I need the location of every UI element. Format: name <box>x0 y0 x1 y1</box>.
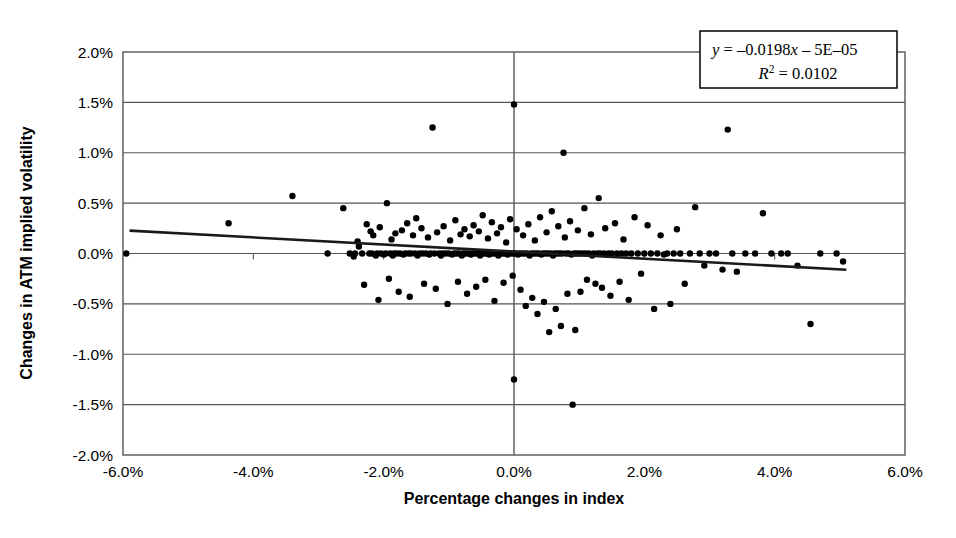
data-point <box>510 272 516 278</box>
data-point <box>687 250 693 256</box>
data-point <box>359 250 365 256</box>
data-point <box>760 210 766 216</box>
data-point <box>562 234 568 240</box>
data-point <box>599 285 605 291</box>
data-point <box>742 250 748 256</box>
data-point <box>418 225 424 231</box>
data-point <box>713 250 719 256</box>
data-point <box>667 301 673 307</box>
data-point <box>706 250 712 256</box>
data-point <box>384 200 390 206</box>
data-point <box>507 216 513 222</box>
data-point <box>520 232 526 238</box>
y-tick-label: -1.5% <box>73 396 114 413</box>
data-point <box>455 279 461 285</box>
x-tick-label: -2.0% <box>363 463 404 480</box>
data-point <box>657 232 663 238</box>
data-point <box>461 226 467 232</box>
data-point <box>433 286 439 292</box>
data-point <box>572 327 578 333</box>
data-point <box>588 231 594 237</box>
data-point <box>444 301 450 307</box>
data-point <box>532 237 538 243</box>
data-point <box>494 230 500 236</box>
data-point <box>833 250 839 256</box>
data-point <box>500 280 506 286</box>
data-point <box>473 284 479 290</box>
data-point <box>503 239 509 245</box>
data-point <box>482 276 488 282</box>
data-point <box>725 126 731 132</box>
data-point <box>752 250 758 256</box>
data-point <box>447 237 453 243</box>
data-point <box>511 376 517 382</box>
data-point <box>628 250 634 256</box>
data-point <box>692 204 698 210</box>
y-tick-label: 0.5% <box>78 195 114 212</box>
data-point <box>523 303 529 309</box>
data-point <box>289 193 295 199</box>
data-point <box>324 250 330 256</box>
data-point <box>641 250 647 256</box>
data-point <box>452 217 458 223</box>
data-point <box>395 289 401 295</box>
data-point <box>392 230 398 236</box>
y-tick-label: 1.0% <box>78 144 114 161</box>
data-point <box>534 311 540 317</box>
data-point <box>457 231 463 237</box>
data-point <box>807 321 813 327</box>
data-point <box>840 258 846 264</box>
data-point <box>817 250 823 256</box>
data-point <box>377 224 383 230</box>
data-point <box>560 150 566 156</box>
data-point <box>546 329 552 335</box>
data-point <box>768 250 774 256</box>
data-point <box>648 250 654 256</box>
data-point <box>581 205 587 211</box>
data-point <box>682 281 688 287</box>
data-point <box>778 250 784 256</box>
data-point <box>616 279 622 285</box>
data-point <box>517 287 523 293</box>
data-point <box>729 250 735 256</box>
data-point <box>558 323 564 329</box>
data-point <box>625 297 631 303</box>
data-point <box>388 236 394 242</box>
data-point <box>421 281 427 287</box>
equation-body: = –0.0198 <box>719 40 790 59</box>
data-point <box>489 219 495 225</box>
data-point <box>498 224 504 230</box>
y-tick-label: 1.5% <box>78 94 114 111</box>
data-point <box>364 221 370 227</box>
x-tick-label: 6.0% <box>887 463 923 480</box>
data-point <box>635 250 641 256</box>
data-point <box>399 227 405 233</box>
data-point <box>575 227 581 233</box>
x-tick-label: 2.0% <box>627 463 663 480</box>
data-point <box>584 276 590 282</box>
data-point <box>480 212 486 218</box>
data-point <box>525 221 531 227</box>
data-point <box>413 215 419 221</box>
x-tick-label: -6.0% <box>103 463 144 480</box>
data-point <box>638 270 644 276</box>
y-tick-label: 2.0% <box>78 44 114 61</box>
x-tick-label: 0.0% <box>496 463 532 480</box>
data-point <box>555 223 561 229</box>
data-point <box>654 250 660 256</box>
data-point <box>225 220 231 226</box>
data-point <box>607 293 613 299</box>
regression-annotation: y = –0.0198x – 5E–05 R2 = 0.0102 <box>700 31 897 88</box>
data-point <box>670 250 676 256</box>
data-point <box>511 101 517 107</box>
data-point <box>434 229 440 235</box>
x-tick-label: 4.0% <box>757 463 793 480</box>
equation-tail: – 5E–05 <box>798 40 858 59</box>
data-point <box>620 236 626 242</box>
data-point <box>541 299 547 305</box>
data-point <box>577 289 583 295</box>
data-point <box>674 226 680 232</box>
data-point <box>485 235 491 241</box>
data-point <box>470 222 476 228</box>
data-point <box>537 214 543 220</box>
